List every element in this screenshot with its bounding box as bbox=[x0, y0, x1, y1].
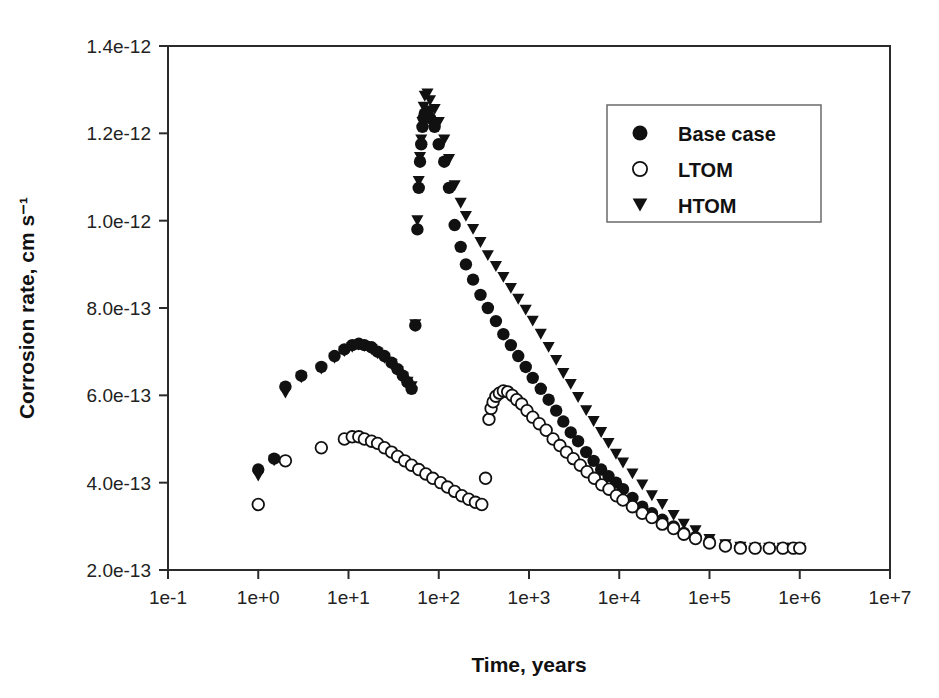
data-point-filled-circle bbox=[428, 121, 440, 133]
data-point-triangle-down bbox=[474, 237, 486, 248]
data-point-triangle-down bbox=[455, 198, 467, 209]
data-point-filled-circle bbox=[252, 463, 264, 475]
data-point-filled-circle bbox=[535, 383, 547, 395]
data-point-triangle-down bbox=[527, 316, 539, 327]
data-point-triangle-down bbox=[512, 294, 524, 305]
data-point-filled-circle bbox=[279, 380, 291, 392]
y-tick-label: 1.0e-12 bbox=[87, 211, 151, 232]
data-point-filled-circle bbox=[460, 258, 472, 270]
x-tick-label: 1e-1 bbox=[149, 587, 187, 608]
data-point-open-circle bbox=[657, 518, 669, 530]
data-point-triangle-down bbox=[490, 261, 502, 272]
data-point-open-circle bbox=[749, 542, 761, 554]
data-point-triangle-down bbox=[617, 458, 629, 469]
y-axis-title: Corrosion rate, cm s⁻¹ bbox=[15, 197, 38, 419]
data-point-triangle-down bbox=[588, 416, 600, 427]
y-tick-label: 8.0e-13 bbox=[87, 298, 151, 319]
data-point-filled-circle bbox=[542, 394, 554, 406]
data-point-open-circle bbox=[794, 542, 806, 554]
data-point-triangle-down bbox=[520, 305, 532, 316]
data-point-open-circle bbox=[690, 533, 702, 545]
data-point-triangle-down bbox=[550, 355, 562, 366]
data-point-open-circle bbox=[704, 537, 716, 549]
data-point-open-circle bbox=[280, 455, 292, 467]
data-point-filled-circle bbox=[268, 452, 280, 464]
data-point-triangle-down bbox=[595, 427, 607, 438]
data-point-triangle-down bbox=[565, 379, 577, 390]
y-axis-ticks: 2.0e-134.0e-136.0e-138.0e-131.0e-121.2e-… bbox=[87, 36, 168, 581]
data-point-open-circle bbox=[252, 499, 264, 511]
data-point-triangle-down bbox=[460, 211, 472, 222]
series-ltom bbox=[252, 385, 805, 554]
x-tick-label: 1e+5 bbox=[688, 587, 731, 608]
x-tick-label: 1e+3 bbox=[508, 587, 551, 608]
y-tick-label: 1.2e-12 bbox=[87, 123, 151, 144]
legend: Base caseLTOMHTOM bbox=[607, 105, 821, 222]
plot-canvas: 1e-11e+01e+11e+21e+31e+41e+51e+61e+7 2.0… bbox=[0, 0, 939, 698]
legend-marker-filled-circle bbox=[633, 126, 648, 141]
data-point-triangle-down bbox=[656, 499, 668, 510]
data-point-triangle-down bbox=[572, 392, 584, 403]
data-point-triangle-down bbox=[602, 438, 614, 449]
data-point-filled-circle bbox=[527, 372, 539, 384]
data-point-filled-circle bbox=[467, 273, 479, 285]
data-point-filled-circle bbox=[572, 435, 584, 447]
legend-label-htom: HTOM bbox=[678, 195, 737, 217]
data-point-filled-circle bbox=[295, 369, 307, 381]
data-point-open-circle bbox=[316, 442, 328, 454]
y-tick-label: 6.0e-13 bbox=[87, 385, 151, 406]
data-point-filled-circle bbox=[405, 383, 417, 395]
data-point-filled-circle bbox=[557, 415, 569, 427]
legend-marker-open-circle bbox=[633, 162, 647, 176]
data-point-triangle-down bbox=[626, 469, 638, 480]
data-point-filled-circle bbox=[413, 182, 425, 194]
data-point-filled-circle bbox=[409, 319, 421, 331]
data-point-triangle-down bbox=[505, 283, 517, 294]
x-tick-label: 1e+7 bbox=[869, 587, 912, 608]
data-point-filled-circle bbox=[438, 156, 450, 168]
data-point-filled-circle bbox=[512, 350, 524, 362]
data-point-open-circle bbox=[480, 473, 492, 485]
corrosion-rate-chart-figure: 1e-11e+01e+11e+21e+31e+41e+51e+61e+7 2.0… bbox=[0, 0, 939, 698]
data-point-triangle-down bbox=[467, 224, 479, 235]
legend-label-base-case: Base case bbox=[678, 123, 776, 145]
data-point-open-circle bbox=[476, 499, 488, 511]
data-point-filled-circle bbox=[474, 289, 486, 301]
x-axis-title: Time, years bbox=[471, 653, 586, 676]
x-tick-label: 1e+0 bbox=[237, 587, 280, 608]
data-point-filled-circle bbox=[315, 361, 327, 373]
data-point-filled-circle bbox=[443, 182, 455, 194]
data-point-triangle-down bbox=[543, 342, 555, 353]
data-point-triangle-down bbox=[636, 479, 648, 490]
data-point-triangle-down bbox=[557, 368, 569, 379]
data-point-triangle-down bbox=[646, 490, 658, 501]
data-point-filled-circle bbox=[411, 223, 423, 235]
data-point-filled-circle bbox=[482, 302, 494, 314]
data-point-triangle-down bbox=[580, 405, 592, 416]
y-tick-label: 1.4e-12 bbox=[87, 36, 151, 57]
data-point-open-circle bbox=[646, 512, 658, 524]
data-point-triangle-down bbox=[535, 329, 547, 340]
data-point-filled-circle bbox=[505, 339, 517, 351]
data-point-open-circle bbox=[735, 542, 747, 554]
x-tick-label: 1e+4 bbox=[598, 587, 641, 608]
y-tick-label: 2.0e-13 bbox=[87, 560, 151, 581]
data-point-filled-circle bbox=[497, 328, 509, 340]
data-point-triangle-down bbox=[482, 250, 494, 261]
data-point-filled-circle bbox=[448, 219, 460, 231]
x-tick-label: 1e+1 bbox=[327, 587, 370, 608]
y-tick-label: 4.0e-13 bbox=[87, 473, 151, 494]
data-point-triangle-down bbox=[497, 272, 509, 283]
x-axis-ticks: 1e-11e+01e+11e+21e+31e+41e+51e+61e+7 bbox=[149, 570, 911, 608]
data-point-triangle-down bbox=[668, 510, 680, 521]
data-point-filled-circle bbox=[414, 156, 426, 168]
data-point-filled-circle bbox=[454, 241, 466, 253]
x-tick-label: 1e+2 bbox=[417, 587, 460, 608]
data-point-open-circle bbox=[764, 542, 776, 554]
data-point-filled-circle bbox=[490, 315, 502, 327]
data-point-filled-circle bbox=[520, 361, 532, 373]
x-tick-label: 1e+6 bbox=[778, 587, 821, 608]
data-point-filled-circle bbox=[415, 138, 427, 150]
data-point-open-circle bbox=[483, 414, 495, 426]
data-point-filled-circle bbox=[550, 404, 562, 416]
